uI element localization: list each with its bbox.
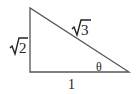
vertical-leg-label: 2 xyxy=(10,38,28,56)
hypotenuse-radicand: 3 xyxy=(81,22,89,38)
angle-label: θ xyxy=(96,60,102,74)
triangle-shape xyxy=(30,8,129,72)
vertical-leg-radicand: 2 xyxy=(19,40,27,56)
hypotenuse-label: 3 xyxy=(72,20,91,38)
base-label: 1 xyxy=(68,77,75,92)
right-triangle-diagram: 2 3 θ 1 xyxy=(0,0,136,94)
